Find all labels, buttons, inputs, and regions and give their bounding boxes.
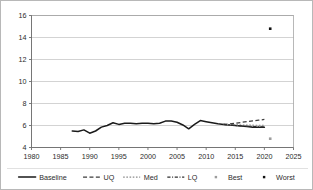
x-tick-label-2025: 2025 (286, 152, 302, 161)
x-tick-label-1980: 1980 (24, 152, 40, 161)
legend-label-baseline: Baseline (39, 173, 67, 182)
y-tick-label-6: 6 (23, 121, 27, 130)
y-tick-label-10: 10 (19, 77, 27, 86)
scatter-points-layer (269, 27, 272, 140)
x-axis-ticks: 1980198519901995200020052010201520202025 (24, 148, 302, 161)
x-tick-label-2015: 2015 (227, 152, 243, 161)
legend-label-best: Best (228, 173, 242, 182)
line-chart: 46810121416 1980198519901995200020052010… (1, 1, 313, 190)
y-tick-label-16: 16 (19, 11, 27, 20)
legend-label-worst: Worst (276, 173, 295, 182)
legend-label-lq: LQ (188, 173, 198, 182)
y-axis-ticks: 46810121416 (19, 11, 32, 152)
x-tick-label-2000: 2000 (140, 152, 156, 161)
legend-label-uq: UQ (104, 173, 115, 182)
x-tick-label-2005: 2005 (169, 152, 185, 161)
y-tick-label-14: 14 (19, 33, 27, 42)
series-uq (224, 119, 265, 124)
legend-marker-worst (263, 176, 265, 178)
y-tick-label-12: 12 (19, 55, 27, 64)
x-tick-label-2010: 2010 (198, 152, 214, 161)
chart-legend: BaselineUQMedLQBestWorst (7, 169, 308, 182)
chart-window: 46810121416 1980198519901995200020052010… (0, 0, 313, 190)
x-tick-label-1995: 1995 (111, 152, 127, 161)
y-tick-label-8: 8 (23, 99, 27, 108)
x-tick-label-2020: 2020 (256, 152, 272, 161)
data-series-layer (72, 119, 264, 133)
point-best (269, 137, 272, 140)
point-worst (269, 27, 272, 30)
series-baseline (72, 121, 264, 134)
x-tick-label-1985: 1985 (53, 152, 69, 161)
x-tick-label-1990: 1990 (82, 152, 98, 161)
legend-marker-best (215, 176, 217, 178)
legend-label-med: Med (144, 173, 158, 182)
